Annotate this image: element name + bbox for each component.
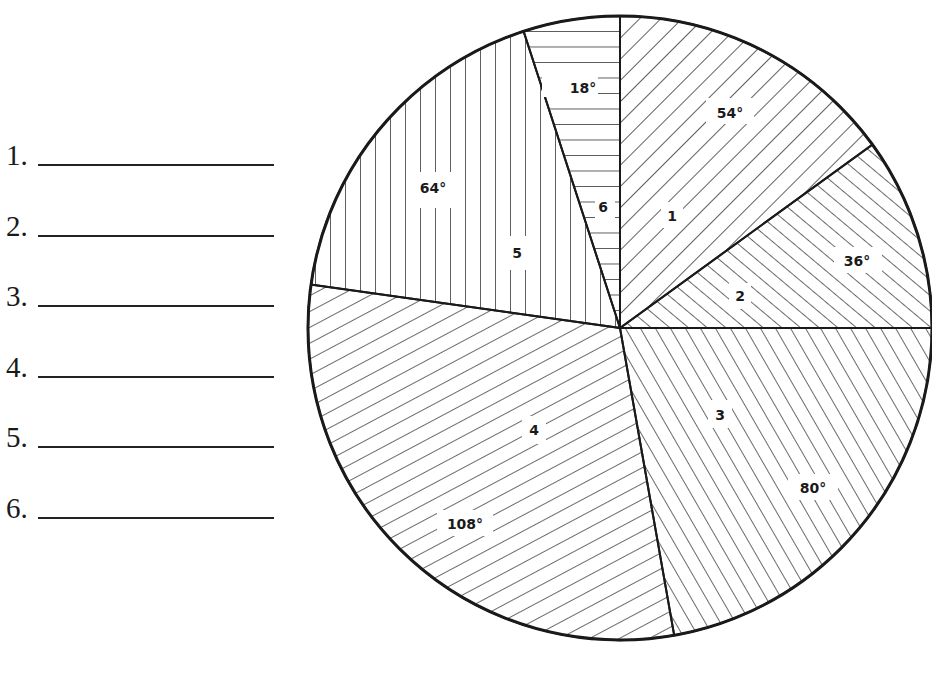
- slice-5-degrees: 64°: [420, 180, 446, 196]
- slice-1-degrees: 54°: [717, 105, 743, 121]
- pie-slices: [308, 16, 932, 640]
- slice-4-number: 4: [529, 422, 539, 438]
- slice-2-degrees: 36°: [844, 253, 870, 269]
- slice-6-degrees: 18°: [570, 80, 596, 96]
- slice-1-number: 1: [667, 208, 677, 224]
- slice-3-number: 3: [715, 407, 725, 423]
- slice-6-number: 6: [598, 199, 608, 215]
- slice-2-number: 2: [735, 288, 745, 304]
- slice-3-degrees: 80°: [800, 480, 826, 496]
- slice-4-degrees: 108°: [447, 516, 483, 532]
- slice-5-number: 5: [512, 245, 522, 261]
- pie-chart: 54° 1 36° 2 3 80° 4 108° 64° 5: [0, 0, 932, 688]
- pie-slice-4: [308, 285, 674, 640]
